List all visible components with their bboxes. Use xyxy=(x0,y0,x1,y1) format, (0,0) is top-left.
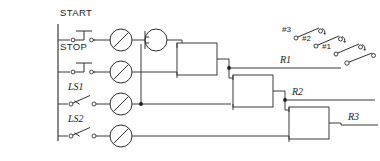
start-coil xyxy=(110,29,132,51)
output-label-r3: R3 xyxy=(347,111,359,122)
switch-label-1: #1 xyxy=(322,42,331,51)
ls2-coil xyxy=(110,125,132,147)
rung-ls1: LS1 xyxy=(58,81,231,115)
stop-label: STOP xyxy=(60,41,87,52)
junction-node-ls1 xyxy=(139,102,143,106)
output-line-r1: R1 xyxy=(227,54,341,70)
output-line-r3: R3 xyxy=(341,111,378,125)
output-line-r2: R2 xyxy=(283,86,375,102)
switch-label-2: #2 xyxy=(302,34,311,43)
ls2-label: LS2 xyxy=(67,113,84,124)
switch-bank: #3 #2 #1 xyxy=(282,25,376,65)
ladder-diagram-svg: START xyxy=(0,0,380,161)
ls1-label: LS1 xyxy=(67,81,84,92)
logic-box-r1 xyxy=(177,43,229,78)
ls1-coil xyxy=(110,93,132,115)
switch-label-3: #3 xyxy=(282,25,291,34)
stop-pushbutton[interactable] xyxy=(71,63,95,74)
motor-symbol xyxy=(145,29,167,51)
selector-switch-1[interactable] xyxy=(334,44,366,56)
output-label-r2: R2 xyxy=(291,86,303,97)
ls1-limit-switch[interactable] xyxy=(69,96,96,107)
logic-box-r3 xyxy=(285,100,341,142)
logic-box-r2 xyxy=(229,68,285,110)
output-label-r1: R1 xyxy=(279,54,291,65)
diagram-canvas: START xyxy=(0,0,380,161)
rung-ls2: LS2 xyxy=(58,113,289,147)
stop-coil xyxy=(110,61,132,83)
start-label: START xyxy=(60,7,92,18)
selector-switch-4[interactable] xyxy=(345,53,376,65)
ls2-limit-switch[interactable] xyxy=(69,128,96,139)
